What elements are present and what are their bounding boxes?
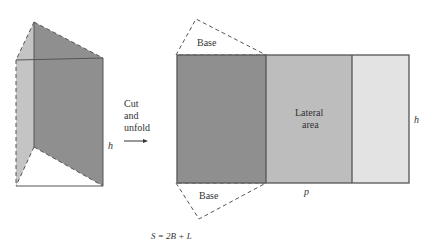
lateral-label-line1: Lateral <box>295 107 323 119</box>
prism-back-face <box>34 22 103 186</box>
face-dark <box>177 55 266 183</box>
prism-net <box>176 19 409 219</box>
top-base-label: Base <box>197 37 216 49</box>
arrow-icon <box>124 139 148 143</box>
triangular-prism <box>16 22 103 186</box>
bottom-base-label: Base <box>199 190 218 202</box>
surface-area-formula: S = 2B + L <box>151 230 192 242</box>
net-height-label: h <box>414 114 419 126</box>
bottom-base-triangle <box>176 183 266 219</box>
top-base-triangle <box>176 19 266 55</box>
lateral-label-line2: area <box>302 119 319 131</box>
perimeter-label: p <box>304 186 309 198</box>
cut-label: Cut <box>124 98 138 110</box>
unfold-label: unfold <box>124 122 150 134</box>
face-light <box>352 55 409 183</box>
prism-height-label: h <box>108 140 113 152</box>
and-label: and <box>124 110 138 122</box>
prism-left-face <box>16 22 34 186</box>
